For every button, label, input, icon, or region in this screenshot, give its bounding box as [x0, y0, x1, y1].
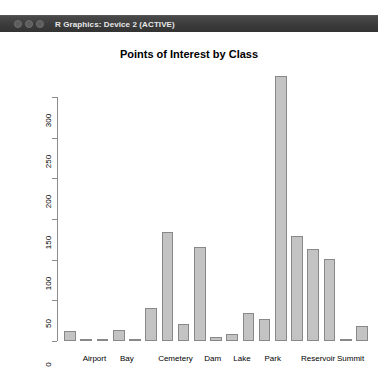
bars-layer — [0, 32, 378, 341]
bar — [194, 247, 206, 341]
bar — [64, 331, 76, 341]
r-graphics-window: R Graphics: Device 2 (ACTIVE) Points of … — [0, 0, 378, 389]
bar — [259, 319, 271, 341]
x-axis-label: Lake — [233, 354, 250, 363]
bar — [97, 339, 109, 341]
bar — [162, 232, 174, 341]
bar — [307, 249, 319, 341]
y-tick-label: 0 — [44, 341, 53, 389]
x-axis-label: Reservoir — [301, 354, 335, 363]
minimize-icon[interactable] — [25, 20, 33, 28]
y-tick-mark — [52, 341, 57, 342]
window-titlebar[interactable]: R Graphics: Device 2 (ACTIVE) — [0, 15, 378, 32]
bar — [340, 339, 352, 341]
bar — [226, 334, 238, 341]
window-controls[interactable] — [14, 20, 44, 28]
window-top-strip — [0, 0, 378, 15]
plot-area: Points of Interest by Class 050100150200… — [0, 32, 378, 389]
chart-panel: 050100150200250300 AirportBayCemeteryDam… — [0, 32, 378, 389]
bar — [129, 339, 141, 341]
x-axis-label: Bay — [120, 354, 134, 363]
x-axis-label: Summit — [337, 354, 364, 363]
x-axis-label: Dam — [204, 354, 221, 363]
bar — [324, 259, 336, 341]
close-icon[interactable] — [14, 20, 22, 28]
bar — [178, 324, 190, 341]
bar — [113, 330, 125, 341]
x-axis-label: Park — [265, 354, 281, 363]
bar — [291, 236, 303, 341]
bar — [80, 339, 92, 341]
bar — [210, 337, 222, 341]
window-title: R Graphics: Device 2 (ACTIVE) — [55, 20, 175, 29]
x-axis-label: Airport — [83, 354, 107, 363]
maximize-icon[interactable] — [36, 20, 44, 28]
x-axis-label: Cemetery — [158, 354, 193, 363]
bar — [145, 308, 157, 341]
bar — [275, 76, 287, 341]
bar — [243, 313, 255, 341]
bar — [356, 326, 368, 341]
